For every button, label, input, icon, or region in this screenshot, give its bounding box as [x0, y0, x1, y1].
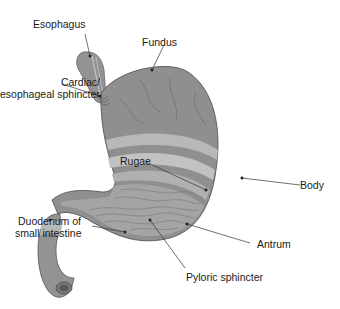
- label-fundus: Fundus: [142, 36, 177, 48]
- label-body: Body: [300, 179, 324, 191]
- label-cardiac-line1: Cardiac/: [8, 76, 100, 88]
- label-antrum: Antrum: [257, 238, 291, 250]
- label-cardiac-line2: esophageal sphincter: [0, 88, 92, 100]
- label-duodenum-line1: Duodenum of: [18, 215, 81, 227]
- label-rugae: Rugae: [120, 155, 151, 167]
- label-pyloric-sphincter: Pyloric sphincter: [186, 271, 263, 283]
- label-duodenum-line2: small intestine: [15, 227, 82, 239]
- label-esophagus: Esophagus: [33, 18, 86, 30]
